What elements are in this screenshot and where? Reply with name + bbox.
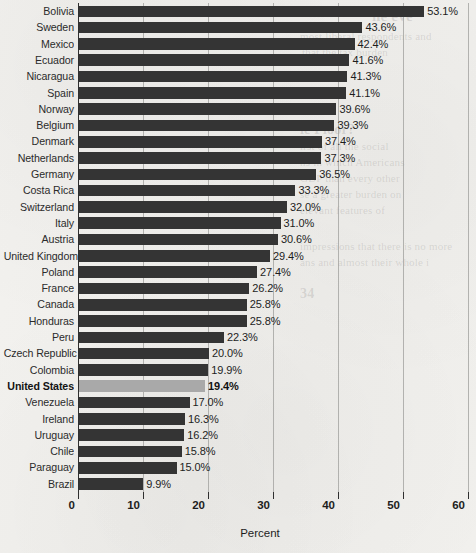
bar-value-label: 37.4% — [325, 133, 356, 150]
bar-value-label: 22.3% — [227, 329, 258, 346]
bar-row: Denmark37.4% — [0, 133, 476, 150]
x-tick-50 — [403, 492, 404, 499]
horizontal-bar-chart: Bolivia53.1%Sweden43.6%Mexico42.4%Ecuado… — [0, 0, 476, 553]
bar-row: Brazil9.9% — [0, 476, 476, 493]
category-label: France — [4, 280, 74, 297]
bar-row: United Kingdom29.4% — [0, 248, 476, 265]
bar — [79, 429, 184, 441]
category-label: Peru — [4, 329, 74, 346]
category-label: Venezuela — [4, 394, 74, 411]
bar — [79, 38, 355, 50]
category-label: Belgium — [4, 117, 74, 134]
bar-row: Spain41.1% — [0, 85, 476, 102]
bar-row: United States19.4% — [0, 378, 476, 395]
bar-row: Mexico42.4% — [0, 36, 476, 53]
bar-row: Norway39.6% — [0, 101, 476, 118]
bar-value-label: 26.2% — [252, 280, 283, 297]
category-label: Mexico — [4, 36, 74, 53]
bar — [79, 299, 247, 311]
bar-row: Switzerland32.0% — [0, 199, 476, 216]
bar-row: Chile15.8% — [0, 443, 476, 460]
category-label: Italy — [4, 215, 74, 232]
bar-value-label: 27.4% — [260, 264, 291, 281]
category-label: Austria — [4, 231, 74, 248]
bar — [79, 185, 295, 197]
bar-row: Netherlands37.3% — [0, 150, 476, 167]
bar-value-label: 15.8% — [185, 443, 216, 460]
bar-row: Bolivia53.1% — [0, 3, 476, 20]
bar-row: Austria30.6% — [0, 231, 476, 248]
bar-value-label: 19.9% — [211, 362, 242, 379]
bar — [79, 71, 347, 83]
bar-value-label: 25.8% — [250, 296, 281, 313]
bar-row: Czech Republic20.0% — [0, 345, 476, 362]
category-label: Brazil — [4, 476, 74, 493]
category-label: Sweden — [4, 19, 74, 36]
category-label: Netherlands — [4, 150, 74, 167]
category-label: Bolivia — [4, 3, 74, 20]
bar — [79, 6, 424, 18]
bar-value-label: 41.6% — [352, 52, 383, 69]
bar — [79, 462, 177, 474]
bar-value-label: 41.3% — [350, 68, 381, 85]
category-label: Spain — [4, 85, 74, 102]
bar — [79, 136, 322, 148]
category-label: Paraguay — [4, 459, 74, 476]
bar-value-label: 25.8% — [250, 313, 281, 330]
category-label: Germany — [4, 166, 74, 183]
bar-value-label: 16.3% — [188, 411, 219, 428]
category-label: Denmark — [4, 133, 74, 150]
bar-value-label: 16.2% — [187, 427, 218, 444]
category-label: Costa Rica — [4, 182, 74, 199]
bar-value-label: 17.0% — [193, 394, 224, 411]
bar — [79, 283, 249, 295]
bar — [79, 152, 321, 164]
x-tick-label: 0 — [38, 499, 78, 511]
bar — [79, 234, 278, 246]
bar-row: Belgium39.3% — [0, 117, 476, 134]
bar — [79, 266, 257, 278]
x-tick-label: 40 — [298, 499, 338, 511]
x-tick-label: 30 — [233, 499, 273, 511]
bar-value-label: 33.3% — [298, 182, 329, 199]
x-tick-60 — [468, 492, 469, 499]
category-label: Honduras — [4, 313, 74, 330]
bar-row: Ecuador41.6% — [0, 52, 476, 69]
bar-row: Colombia19.9% — [0, 362, 476, 379]
category-label: Switzerland — [4, 199, 74, 216]
bar — [79, 201, 287, 213]
scanned-page: he evemost liberal respondents andthat t… — [0, 0, 476, 553]
bar — [79, 348, 209, 360]
category-label: Colombia — [4, 362, 74, 379]
bar-value-label: 9.9% — [146, 476, 171, 493]
bar-value-label: 15.0% — [180, 459, 211, 476]
bar — [79, 380, 205, 392]
x-tick-10 — [143, 492, 144, 499]
bar-row: Germany36.5% — [0, 166, 476, 183]
bar-row: Venezuela17.0% — [0, 394, 476, 411]
bar-value-label: 43.6% — [365, 19, 396, 36]
bar — [79, 250, 270, 262]
bar-value-label: 30.6% — [281, 231, 312, 248]
category-label: Uruguay — [4, 427, 74, 444]
category-label: Ireland — [4, 411, 74, 428]
bar-row: Italy31.0% — [0, 215, 476, 232]
bar — [79, 103, 336, 115]
bar-row: Nicaragua41.3% — [0, 68, 476, 85]
bar — [79, 364, 208, 376]
bar-value-label: 42.4% — [358, 36, 389, 53]
category-label: Poland — [4, 264, 74, 281]
bar — [79, 446, 182, 458]
bar-value-label: 41.1% — [349, 85, 380, 102]
bar-row: Ireland16.3% — [0, 411, 476, 428]
bar — [79, 332, 224, 344]
x-tick-30 — [273, 492, 274, 499]
category-label: Nicaragua — [4, 68, 74, 85]
bar-row: Poland27.4% — [0, 264, 476, 281]
bar — [79, 315, 247, 327]
x-axis-title: Percent — [0, 527, 476, 539]
bar-value-label: 39.3% — [337, 117, 368, 134]
bar — [79, 478, 143, 490]
bar-row: Paraguay15.0% — [0, 459, 476, 476]
bar-row: Honduras25.8% — [0, 313, 476, 330]
